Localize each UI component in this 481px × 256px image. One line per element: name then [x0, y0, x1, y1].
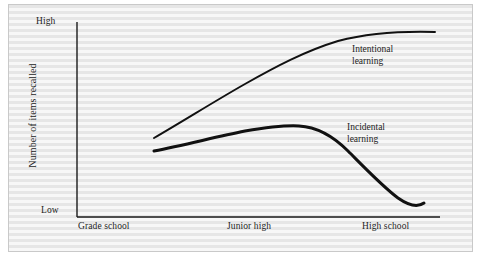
y-axis-bottom-tick-label: Low [41, 205, 59, 215]
x-axis-tick-label-junior-high: Junior high [227, 221, 271, 231]
series-annotation-intentional-learning: Intentional learning [352, 44, 393, 67]
y-axis-title: Number of items recalled [27, 46, 38, 186]
series-annotation-intentional-line2: learning [352, 56, 393, 68]
chart-plot-area [0, 0, 481, 256]
series-annotation-incidental-line2: learning [347, 134, 385, 146]
series-annotation-incidental-line1: Incidental [347, 122, 385, 134]
series-annotation-intentional-line1: Intentional [352, 44, 393, 56]
series-annotation-incidental-learning: Incidental learning [347, 122, 385, 145]
y-axis-top-tick-label: High [36, 16, 55, 26]
chart-figure: High Low Number of items recalled Grade … [0, 0, 481, 256]
x-axis-tick-label-high-school: High school [362, 221, 409, 231]
x-axis-tick-label-grade-school: Grade school [78, 221, 130, 231]
